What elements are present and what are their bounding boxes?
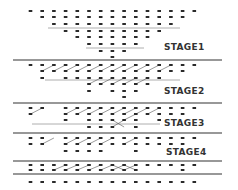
bit-dot [134, 107, 138, 109]
bit-dot [157, 181, 161, 183]
bit-dot [169, 107, 173, 109]
bit-dot [52, 164, 56, 166]
bit-dot [76, 164, 80, 166]
stage-labels: STAGE1 STAGE2 STAGE3 STAGE4 [164, 42, 207, 157]
bit-dot [122, 10, 126, 12]
bit-dot [64, 150, 68, 152]
bit-dot [134, 70, 138, 72]
bit-dot [99, 113, 103, 115]
bit-dot [134, 164, 138, 166]
bit-dot [87, 181, 91, 183]
bit-dot [181, 164, 185, 166]
bit-dot [111, 169, 115, 171]
bit-dot [99, 126, 103, 128]
bit-dot [122, 64, 126, 66]
bit-dot [181, 64, 185, 66]
bit-dot [87, 77, 91, 79]
bit-dot [157, 64, 161, 66]
bit-dot [181, 143, 185, 145]
bit-dot [87, 143, 91, 145]
bit-dot [157, 164, 161, 166]
bit-dot [29, 113, 33, 115]
bit-dot [87, 64, 91, 66]
bit-dot [122, 169, 126, 171]
bit-dot [193, 64, 197, 66]
bit-dot [111, 23, 115, 25]
bit-dot [146, 23, 150, 25]
bit-dot [169, 181, 173, 183]
bit-dot [157, 23, 161, 25]
bit-dot [40, 64, 44, 66]
bit-dot [64, 169, 68, 171]
bit-dot [157, 113, 161, 115]
bit-dot [99, 137, 103, 139]
bit-dot [134, 16, 138, 18]
bit-dot [157, 137, 161, 139]
bit-dot [64, 181, 68, 183]
bit-dot [111, 164, 115, 166]
bit-dot [146, 10, 150, 12]
bit-dot [40, 77, 44, 79]
bit-dot [76, 113, 80, 115]
bit-dot [99, 10, 103, 12]
bit-dot [146, 36, 150, 38]
bit-dot [29, 107, 33, 109]
bit-dot [111, 119, 115, 121]
bit-dot [99, 150, 103, 152]
bit-dot [29, 10, 33, 12]
bit-dot [146, 77, 150, 79]
bit-dot [169, 10, 173, 12]
bit-dot [64, 164, 68, 166]
bit-dot [181, 10, 185, 12]
bit-dot [64, 119, 68, 121]
bit-dot [122, 181, 126, 183]
bit-dot [99, 50, 103, 52]
bit-dot [64, 16, 68, 18]
bit-dot [169, 164, 173, 166]
bit-dot [157, 77, 161, 79]
bit-dot [111, 43, 115, 45]
bit-dot [76, 36, 80, 38]
bit-dot [111, 137, 115, 139]
stage-label-4: STAGE4 [166, 147, 207, 157]
bit-dot [111, 181, 115, 183]
bit-dot [99, 64, 103, 66]
bit-dot [193, 164, 197, 166]
bit-dot [99, 36, 103, 38]
bit-dot [122, 119, 126, 121]
bit-dot [157, 16, 161, 18]
bit-dot [87, 150, 91, 152]
bit-dot [111, 16, 115, 18]
bit-dot [122, 36, 126, 38]
bit-dot [146, 143, 150, 145]
bit-dot [111, 70, 115, 72]
bit-dot [76, 107, 80, 109]
bit-dot [76, 10, 80, 12]
bit-dot [181, 107, 185, 109]
bit-dot [87, 126, 91, 128]
bit-dot [122, 50, 126, 52]
bit-dot [169, 137, 173, 139]
bit-dot [76, 150, 80, 152]
bit-dot [134, 113, 138, 115]
bit-dot [122, 113, 126, 115]
bit-dot [122, 143, 126, 145]
bit-dot [111, 50, 115, 52]
bit-dot [122, 90, 126, 92]
bit-dot [29, 169, 33, 171]
bit-dot [193, 10, 197, 12]
bit-dot [146, 83, 150, 85]
bit-dot [146, 30, 150, 32]
bit-dot [87, 30, 91, 32]
bit-dot [122, 107, 126, 109]
bit-dot [40, 137, 44, 139]
bit-dot [99, 23, 103, 25]
bit-dot [146, 70, 150, 72]
stage-label-1: STAGE1 [164, 42, 205, 52]
bit-dot [76, 70, 80, 72]
bit-dot [76, 143, 80, 145]
bit-dot [169, 64, 173, 66]
bit-dot [134, 77, 138, 79]
bit-dot [87, 70, 91, 72]
bit-dot [40, 181, 44, 183]
